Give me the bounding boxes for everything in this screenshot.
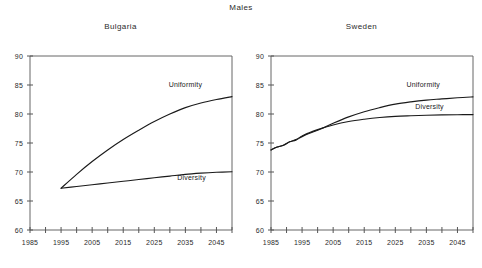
line-chart-bulgaria: 6065707580859019851995200520152025203520… [0, 22, 241, 268]
y-axis-tick-label: 60 [256, 227, 264, 234]
y-axis-tick-label: 90 [256, 53, 264, 60]
x-axis-tick-label: 2035 [177, 239, 193, 246]
figure-root: Males Bulgaria 6065707580859019851995200… [0, 0, 482, 268]
y-axis-tick-label: 65 [15, 198, 23, 205]
x-axis-tick-label: 1995 [53, 239, 69, 246]
chart-panel-bulgaria: Bulgaria 6065707580859019851995200520152… [0, 22, 241, 268]
y-axis-tick-label: 80 [15, 111, 23, 118]
x-axis-tick-label: 2005 [325, 239, 341, 246]
y-axis-tick-label: 85 [256, 82, 264, 89]
x-axis-tick-label: 2045 [208, 239, 224, 246]
x-axis-tick-label: 1985 [263, 239, 279, 246]
y-axis-tick-label: 60 [15, 227, 23, 234]
y-axis-tick-label: 80 [256, 111, 264, 118]
y-axis-tick-label: 70 [256, 169, 264, 176]
series-label-uniformity: Uniformity [407, 81, 441, 89]
series-label-diversity: Diversity [177, 174, 206, 182]
x-axis-tick-label: 1985 [22, 239, 38, 246]
x-axis-tick-label: 2045 [449, 239, 465, 246]
y-axis-tick-label: 85 [15, 82, 23, 89]
x-axis-tick-label: 2005 [84, 239, 100, 246]
plot-frame [271, 56, 473, 230]
x-axis-tick-label: 2025 [387, 239, 403, 246]
x-axis-tick-label: 1995 [294, 239, 310, 246]
x-axis-tick-label: 2025 [146, 239, 162, 246]
series-line-diversity [61, 172, 232, 189]
series-label-diversity: Diversity [415, 103, 444, 111]
series-line-diversity [271, 115, 473, 150]
y-axis-tick-label: 75 [15, 140, 23, 147]
y-axis-tick-label: 70 [15, 169, 23, 176]
x-axis-tick-label: 2015 [115, 239, 131, 246]
x-axis-tick-label: 2035 [418, 239, 434, 246]
figure-main-title: Males [0, 3, 482, 12]
line-chart-sweden: 6065707580859019851995200520152025203520… [241, 22, 482, 268]
y-axis-tick-label: 90 [15, 53, 23, 60]
y-axis-tick-label: 65 [256, 198, 264, 205]
series-label-uniformity: Uniformity [169, 81, 203, 89]
y-axis-tick-label: 75 [256, 140, 264, 147]
series-line-uniformity [61, 97, 232, 189]
chart-panel-sweden: Sweden 606570758085901985199520052015202… [241, 22, 482, 268]
x-axis-tick-label: 2015 [356, 239, 372, 246]
